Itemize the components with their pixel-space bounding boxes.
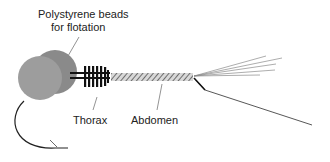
abdomen [111,73,193,81]
beads-label-line1: Polystyrene beads [38,8,129,20]
bead-front [18,56,62,100]
abdomen-label: Abdomen [131,114,178,126]
cerci-fan [194,56,282,76]
insect-diagram: Polystyrene beads for flotation Thorax A… [0,0,330,162]
polystyrene-beads [18,50,77,100]
tail-filament [194,78,312,125]
tail-joint [194,78,205,90]
beads-leader-line [68,37,79,56]
thorax-leader-line [93,97,97,110]
thorax-label: Thorax [73,114,108,126]
beads-label-line2: for flotation [51,21,105,33]
hook-barb [50,140,57,147]
hook-curve [15,101,68,148]
abdomen-leader-line [157,84,162,110]
